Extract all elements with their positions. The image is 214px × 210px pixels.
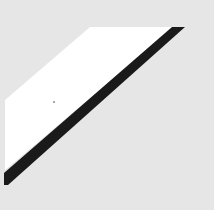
speck [53,101,55,103]
graphic-svg [0,0,214,210]
abstract-graphic [0,0,214,210]
